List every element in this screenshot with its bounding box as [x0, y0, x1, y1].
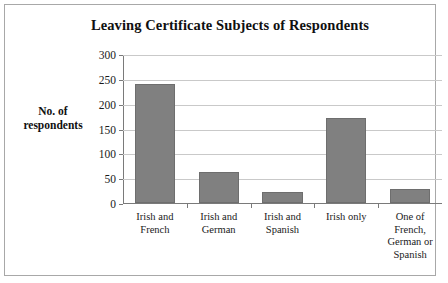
y-tick-label: 150 — [99, 124, 116, 136]
x-category-label: Irish andGerman — [182, 211, 256, 236]
chart-title: Leaving Certificate Subjects of Responde… — [65, 17, 395, 34]
x-category-label-line: French, — [373, 224, 447, 237]
x-category-label-line: Irish and — [118, 211, 192, 224]
x-category-label-line: One of — [373, 211, 447, 224]
gridline — [123, 55, 442, 56]
x-axis-line — [123, 203, 442, 204]
y-axis-title-line-1: No. of — [11, 105, 95, 119]
bar — [199, 172, 239, 203]
y-tick-mark — [119, 105, 123, 106]
x-category-label-line: Spanish — [373, 249, 447, 262]
x-tick-mark — [187, 204, 188, 208]
y-tick-mark — [119, 204, 123, 205]
x-category-label-line: Irish and — [182, 211, 256, 224]
x-category-label-line: German or — [373, 236, 447, 249]
x-category-label: Irish andFrench — [118, 211, 192, 236]
y-tick-label: 0 — [110, 198, 116, 210]
x-tick-mark — [378, 204, 379, 208]
chart-figure: Leaving Certificate Subjects of Responde… — [0, 0, 448, 283]
x-category-label: Irish andSpanish — [246, 211, 320, 236]
gridline — [123, 80, 442, 81]
y-tick-label: 50 — [105, 173, 117, 185]
x-tick-mark — [251, 204, 252, 208]
x-category-label-line: French — [118, 224, 192, 237]
bar — [326, 118, 366, 203]
y-tick-mark — [119, 154, 123, 155]
y-tick-label: 300 — [99, 49, 116, 61]
y-tick-mark — [119, 80, 123, 81]
x-category-label: Irish only — [309, 211, 383, 224]
y-axis-title: No. of respondents — [11, 105, 95, 132]
bar — [135, 84, 175, 203]
plot-area: 050100150200250300Irish andFrenchIrish a… — [123, 55, 442, 204]
x-category-label-line: German — [182, 224, 256, 237]
y-tick-mark — [119, 130, 123, 131]
x-category-label-line: Irish and — [246, 211, 320, 224]
x-tick-mark — [314, 204, 315, 208]
x-category-label: One ofFrench,German orSpanish — [373, 211, 447, 261]
y-tick-label: 200 — [99, 99, 116, 111]
bar — [390, 189, 430, 203]
x-category-label-line: Irish only — [309, 211, 383, 224]
chart-frame: Leaving Certificate Subjects of Responde… — [4, 4, 436, 276]
y-axis-title-line-2: respondents — [11, 119, 95, 133]
bar — [262, 192, 302, 203]
y-tick-mark — [119, 179, 123, 180]
y-tick-label: 250 — [99, 74, 116, 86]
x-category-label-line: Spanish — [246, 224, 320, 237]
y-tick-mark — [119, 55, 123, 56]
y-tick-label: 100 — [99, 148, 116, 160]
